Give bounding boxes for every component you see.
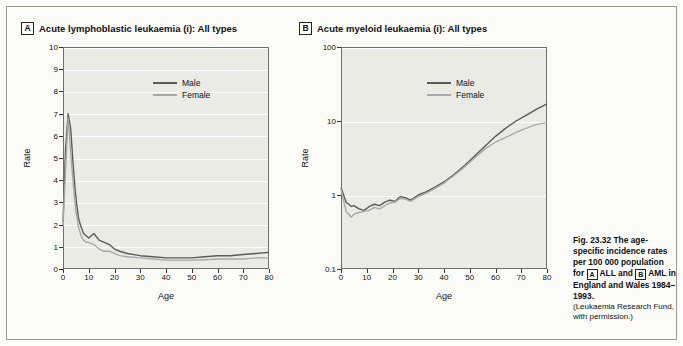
- x-axis-tick: [470, 269, 471, 273]
- panel-b-legend: MaleFemale: [427, 77, 484, 101]
- x-axis-tick-label: 80: [265, 273, 274, 282]
- legend-label: Female: [182, 90, 210, 100]
- x-axis-tick-label: 20: [110, 273, 119, 282]
- x-axis-tick: [166, 269, 167, 273]
- x-axis-tick: [521, 269, 522, 273]
- legend-swatch-female: [427, 94, 451, 96]
- panel-a-tag: A: [21, 22, 34, 35]
- series-line-male: [63, 114, 269, 258]
- x-axis-tick-label: 60: [491, 273, 500, 282]
- legend-label: Male: [456, 78, 474, 88]
- figure-frame: A Acute lymphoblastic leukaemia (i): All…: [6, 6, 677, 340]
- x-axis-tick: [367, 269, 368, 273]
- x-axis-tick: [89, 269, 90, 273]
- legend-item-female: Female: [153, 89, 210, 101]
- legend-swatch-male: [153, 82, 177, 84]
- y-axis-tick: [59, 247, 63, 248]
- legend-label: Female: [456, 90, 484, 100]
- panel-a-legend: MaleFemale: [153, 77, 210, 101]
- panel-b: B Acute myeloid leukaemia (i): All types…: [299, 21, 559, 319]
- x-axis-tick-label: 40: [440, 273, 449, 282]
- x-axis-tick: [218, 269, 219, 273]
- legend-item-male: Male: [427, 77, 484, 89]
- y-axis-tick: [337, 121, 341, 122]
- x-axis-tick: [192, 269, 193, 273]
- panel-b-tag: B: [299, 22, 312, 35]
- y-axis-tick: [59, 158, 63, 159]
- legend-item-female: Female: [427, 89, 484, 101]
- x-axis-tick-label: 70: [517, 273, 526, 282]
- y-axis-tick: [59, 225, 63, 226]
- x-axis-tick-label: 70: [239, 273, 248, 282]
- x-axis-tick: [547, 269, 548, 273]
- x-axis-tick: [115, 269, 116, 273]
- x-axis-tick: [269, 269, 270, 273]
- x-axis-tick-label: 40: [162, 273, 171, 282]
- figure-page: A Acute lymphoblastic leukaemia (i): All…: [0, 0, 683, 346]
- panel-a-title: A Acute lymphoblastic leukaemia (i): All…: [21, 21, 281, 35]
- panel-a-title-text: Acute lymphoblastic leukaemia (i): All t…: [39, 23, 237, 34]
- y-axis-tick: [59, 69, 63, 70]
- figure-caption: Fig. 23.32 The age-specific incidence ra…: [573, 235, 677, 323]
- legend-swatch-female: [153, 94, 177, 96]
- panel-b-title: B Acute myeloid leukaemia (i): All types: [299, 21, 559, 35]
- y-axis-tick: [59, 180, 63, 181]
- y-axis-tick: [337, 47, 341, 48]
- x-axis-tick: [63, 269, 64, 273]
- x-axis-tick: [140, 269, 141, 273]
- x-axis-tick-label: 0: [339, 273, 343, 282]
- legend-item-male: Male: [153, 77, 210, 89]
- y-axis-tick: [59, 114, 63, 115]
- x-axis-tick-label: 10: [362, 273, 371, 282]
- caption-tag-a: A: [587, 269, 598, 280]
- series-line-female: [341, 123, 547, 218]
- x-axis-tick-label: 30: [136, 273, 145, 282]
- legend-swatch-male: [427, 82, 451, 84]
- x-axis-tick: [418, 269, 419, 273]
- y-axis-tick: [59, 202, 63, 203]
- x-axis-tick: [341, 269, 342, 273]
- x-axis-tick: [444, 269, 445, 273]
- x-axis-tick-label: 80: [543, 273, 552, 282]
- panel-a: A Acute lymphoblastic leukaemia (i): All…: [21, 21, 281, 319]
- x-axis-tick-label: 60: [213, 273, 222, 282]
- series-line-male: [341, 104, 547, 210]
- y-axis-tick: [337, 195, 341, 196]
- panel-b-title-text: Acute myeloid leukaemia (i): All types: [317, 23, 487, 34]
- y-axis-tick: [59, 136, 63, 137]
- x-axis-tick: [393, 269, 394, 273]
- caption-permission: (Leukaemia Research Fund, with permissio…: [573, 302, 677, 323]
- x-axis-tick-label: 50: [187, 273, 196, 282]
- y-axis-tick: [59, 91, 63, 92]
- x-axis-tick: [243, 269, 244, 273]
- x-axis-tick-label: 30: [414, 273, 423, 282]
- panel-b-plot: Rate Age MaleFemale 0.111010001020304050…: [299, 41, 559, 319]
- x-axis-tick: [496, 269, 497, 273]
- x-axis-tick-label: 0: [61, 273, 65, 282]
- x-axis-tick-label: 50: [465, 273, 474, 282]
- x-axis-tick-label: 10: [84, 273, 93, 282]
- caption-tag-b: B: [635, 269, 646, 280]
- panel-a-plot: Rate Age MaleFemale 01234567891001020304…: [21, 41, 281, 319]
- caption-mid-text: ALL and: [600, 268, 633, 278]
- series-line-female: [63, 118, 269, 260]
- y-axis-tick: [59, 47, 63, 48]
- legend-label: Male: [182, 78, 200, 88]
- x-axis-tick-label: 20: [388, 273, 397, 282]
